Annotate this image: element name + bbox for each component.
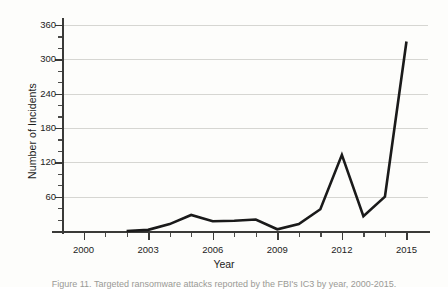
- figure-caption: Figure 11. Targeted ransomware attacks r…: [0, 279, 448, 289]
- y-axis-tick-label: 300: [16, 53, 56, 64]
- x-axis-tick-label: 2006: [188, 244, 238, 255]
- x-axis-tick-label: 2015: [381, 244, 431, 255]
- x-axis-tick-label: 2009: [252, 244, 302, 255]
- y-axis-tick-major: [55, 197, 62, 198]
- y-axis-tick-major: [55, 162, 62, 163]
- y-axis-tick-major: [55, 128, 62, 129]
- y-axis-tick-label: 180: [16, 122, 56, 133]
- y-axis-tick-major: [55, 25, 62, 26]
- y-axis-tick-label: 360: [16, 19, 56, 30]
- y-axis-tick-label: 120: [16, 156, 56, 167]
- plot-area: 60120180240300360 2000200320062009201220…: [62, 18, 428, 234]
- y-axis-tick-label: 60: [16, 191, 56, 202]
- x-axis-tick-label: 2003: [123, 244, 173, 255]
- y-axis-tick-major: [55, 94, 62, 95]
- x-axis-title: Year: [0, 258, 448, 270]
- y-axis-tick-major: [55, 59, 62, 60]
- x-axis-tick-label: 2012: [317, 244, 367, 255]
- x-axis-tick-label: 2000: [59, 244, 109, 255]
- y-axis-tick-label: 240: [16, 88, 56, 99]
- data-series-line: [62, 18, 428, 234]
